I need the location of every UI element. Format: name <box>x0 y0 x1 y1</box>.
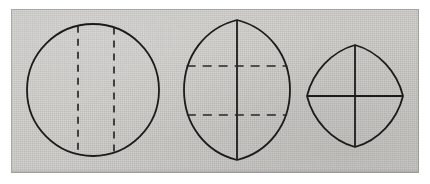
figures-canvas <box>0 0 430 184</box>
figure-plate <box>0 0 430 184</box>
figure-2-vesica-group <box>184 20 290 160</box>
figure-3-four-arc-oval-group <box>307 45 403 147</box>
figure-1-circle-group <box>27 24 159 156</box>
figure-1-circle-outline <box>27 24 159 156</box>
